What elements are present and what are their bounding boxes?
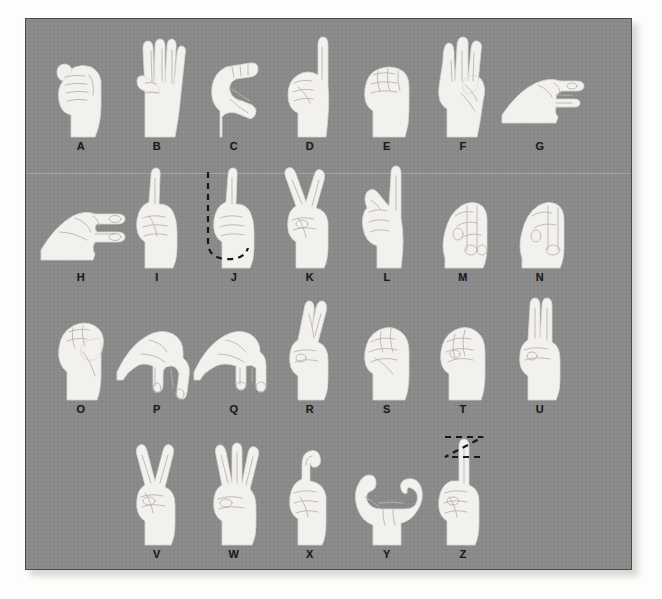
sign-cell-x[interactable]: X (268, 439, 352, 561)
sign-cell-m[interactable]: M (421, 162, 505, 284)
hand-sign-d-icon (268, 31, 352, 137)
hand-sign-z-icon (421, 439, 505, 545)
sign-label-u: U (498, 403, 582, 416)
sign-label-z: Z (421, 548, 505, 561)
sign-label-c: C (192, 140, 276, 153)
sign-cell-z[interactable]: Z (421, 439, 505, 561)
hand-sign-y-icon (345, 439, 429, 545)
sign-label-y: Y (345, 548, 429, 561)
sign-cell-l[interactable]: L (345, 162, 429, 284)
sign-cell-w[interactable]: W (192, 439, 276, 561)
sign-cell-y[interactable]: Y (345, 439, 429, 561)
z-motion-trace-wrapper (421, 363, 505, 469)
hand-sign-a-icon (39, 31, 123, 137)
hand-sign-c-icon (192, 31, 276, 137)
sign-label-j: J (192, 271, 276, 284)
sign-label-b: B (115, 140, 199, 153)
sign-cell-u[interactable]: U (498, 294, 582, 416)
sign-row-3: O P (26, 294, 631, 426)
hand-sign-u-icon (498, 294, 582, 400)
z-motion-trace (445, 437, 483, 457)
sign-cell-a[interactable]: A (39, 31, 123, 153)
hand-sign-s-icon (345, 294, 429, 400)
sign-label-s: S (345, 403, 429, 416)
sign-label-n: N (498, 271, 582, 284)
hand-sign-j-icon (192, 162, 276, 268)
sign-cell-n[interactable]: N (498, 162, 582, 284)
sign-label-g: G (498, 140, 582, 153)
hand-sign-q-icon (192, 294, 276, 400)
sign-label-o: O (39, 403, 123, 416)
sign-cell-r[interactable]: R (268, 294, 352, 416)
chart-plate: A B (25, 18, 632, 570)
hand-sign-b-icon (115, 31, 199, 137)
hand-sign-k-icon (268, 162, 352, 268)
sign-label-v: V (115, 548, 199, 561)
sign-label-i: I (115, 271, 199, 284)
sign-label-q: Q (192, 403, 276, 416)
sign-cell-e[interactable]: E (345, 31, 429, 153)
sign-cell-s[interactable]: S (345, 294, 429, 416)
sign-cell-c[interactable]: C (192, 31, 276, 153)
hand-sign-g-icon (498, 31, 582, 137)
hand-sign-r-icon (268, 294, 352, 400)
sign-cell-p[interactable]: P (115, 294, 199, 416)
hand-sign-l-icon (345, 162, 429, 268)
sign-label-h: H (39, 271, 123, 284)
sign-label-m: M (421, 271, 505, 284)
hand-sign-o-icon (39, 294, 123, 400)
sign-label-k: K (268, 271, 352, 284)
sign-label-w: W (192, 548, 276, 561)
hand-sign-n-icon (498, 162, 582, 268)
asl-alphabet-chart-page: A B (0, 0, 662, 599)
sign-cell-b[interactable]: B (115, 31, 199, 153)
hand-sign-i-icon (115, 162, 199, 268)
sign-row-2: H I (26, 162, 631, 294)
hand-sign-m-icon (421, 162, 505, 268)
sign-label-x: X (268, 548, 352, 561)
sign-cell-g[interactable]: G (498, 31, 582, 153)
sign-cell-q[interactable]: Q (192, 294, 276, 416)
sign-cell-d[interactable]: D (268, 31, 352, 153)
sign-label-d: D (268, 140, 352, 153)
hand-sign-f-icon (421, 31, 505, 137)
sign-cell-k[interactable]: K (268, 162, 352, 284)
sign-cell-i[interactable]: I (115, 162, 199, 284)
sign-label-a: A (39, 140, 123, 153)
hand-sign-p-icon (115, 294, 199, 400)
sign-label-l: L (345, 271, 429, 284)
sign-cell-v[interactable]: V (115, 439, 199, 561)
hand-sign-v-icon (115, 439, 199, 545)
sign-cell-h[interactable]: H (39, 162, 123, 284)
sign-label-p: P (115, 403, 199, 416)
hand-sign-h-icon (39, 162, 123, 268)
hand-sign-w-icon (192, 439, 276, 545)
sign-cell-f[interactable]: F (421, 31, 505, 153)
sign-row-1: A B (26, 31, 631, 163)
hand-sign-e-icon (345, 31, 429, 137)
sign-cell-j[interactable]: J (192, 162, 276, 284)
sign-row-4: V W (26, 439, 631, 570)
sign-cell-o[interactable]: O (39, 294, 123, 416)
sign-label-e: E (345, 140, 429, 153)
sign-label-f: F (421, 140, 505, 153)
hand-sign-x-icon (268, 439, 352, 545)
sign-label-r: R (268, 403, 352, 416)
